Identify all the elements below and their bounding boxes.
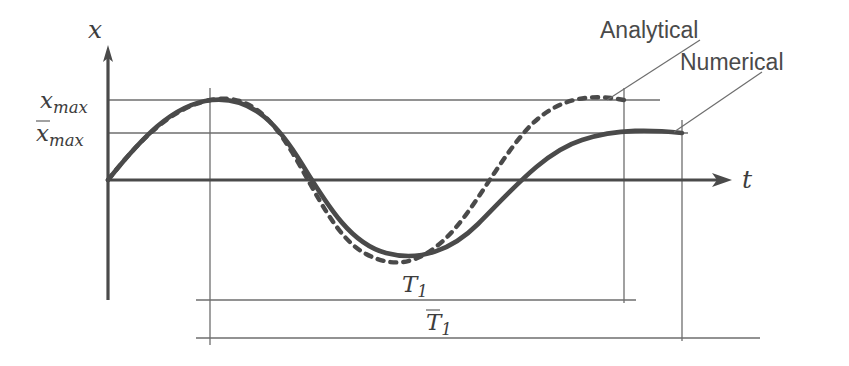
label-xbarmax-sub: max	[49, 131, 85, 150]
numerical-curve	[108, 100, 682, 256]
label-Tbar1-sub: 1	[441, 320, 452, 339]
oscillation-comparison-figure: x t xmax xmax T1 T1 Analytical Numerical	[0, 0, 849, 366]
annotation-numerical: Numerical	[680, 49, 784, 75]
label-xmax-sub: max	[53, 98, 89, 117]
label-T1-sub: 1	[417, 282, 428, 301]
label-xbarmax: xmax	[36, 120, 85, 150]
svg-text:xmax: xmax	[40, 87, 89, 117]
label-xbarmax-base: x	[36, 120, 49, 146]
annotation-analytical: Analytical	[600, 17, 698, 43]
label-analytical-period: T1	[402, 271, 428, 301]
svg-text:xmax: xmax	[36, 120, 85, 150]
label-xmax-base: x	[40, 87, 53, 113]
svg-text:T1: T1	[402, 271, 428, 301]
x-axis-label: t	[742, 165, 753, 194]
label-xmax: xmax	[40, 87, 89, 117]
y-axis-label: x	[88, 15, 102, 44]
svg-text:T1: T1	[426, 309, 452, 339]
label-numerical-period: T1	[426, 309, 452, 339]
leader-line-numerical	[674, 72, 762, 132]
